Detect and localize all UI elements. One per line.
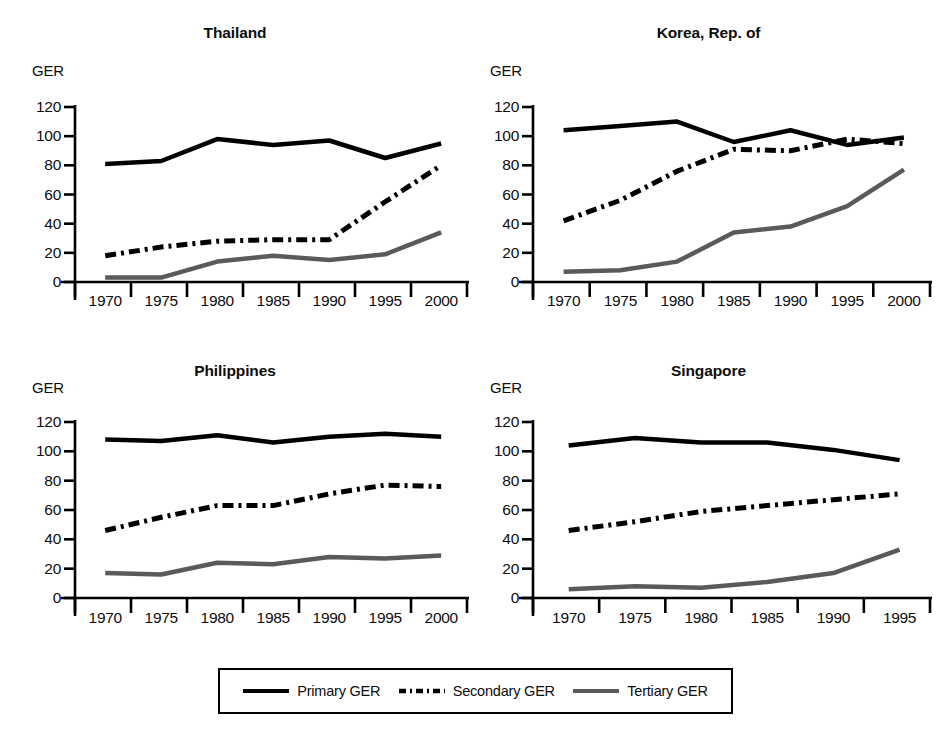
chart-legend: Primary GER Secondary GER Tertiary GER — [218, 668, 733, 714]
y-tick-label: 80 — [13, 156, 61, 174]
series-line-primary — [105, 139, 441, 164]
y-tick-label: 20 — [13, 560, 61, 578]
legend-label-primary: Primary GER — [297, 683, 380, 699]
y-tick-label: 20 — [471, 560, 519, 578]
x-tick-label: 1975 — [605, 609, 665, 627]
x-tick-label: 1980 — [671, 609, 731, 627]
y-axis-label-thailand: GER — [32, 62, 64, 79]
x-tick-label: 1970 — [75, 609, 135, 627]
x-tick-label: 1970 — [75, 292, 135, 310]
series-line-secondary — [564, 139, 904, 221]
series-line-primary — [564, 122, 904, 145]
y-tick-label: 40 — [471, 215, 519, 233]
y-tick-label: 40 — [13, 530, 61, 548]
y-tick-label: 60 — [13, 501, 61, 519]
legend-label-secondary: Secondary GER — [453, 683, 555, 699]
y-axis-label-singapore: GER — [490, 379, 522, 396]
x-tick-label: 2000 — [874, 292, 934, 310]
x-tick-label: 1990 — [803, 609, 863, 627]
x-tick-label: 2000 — [411, 292, 471, 310]
y-tick-label: 0 — [13, 273, 61, 291]
x-tick-label: 1985 — [704, 292, 764, 310]
x-tick-label: 1970 — [539, 609, 599, 627]
x-tick-label: 1975 — [131, 292, 191, 310]
y-tick-label: 120 — [471, 413, 519, 431]
y-tick-label: 0 — [13, 589, 61, 607]
y-tick-label: 80 — [471, 472, 519, 490]
y-tick-label: 120 — [13, 98, 61, 116]
y-tick-label: 80 — [13, 472, 61, 490]
x-tick-label: 1975 — [590, 292, 650, 310]
x-tick-label: 1995 — [870, 609, 930, 627]
x-tick-label: 1975 — [131, 609, 191, 627]
y-tick-label: 100 — [471, 127, 519, 145]
dashed-line-icon — [399, 686, 445, 696]
panel-title-singapore: Singapore — [470, 362, 947, 380]
y-tick-label: 60 — [13, 186, 61, 204]
x-tick-label: 1985 — [243, 609, 303, 627]
legend-entry-secondary: Secondary GER — [399, 683, 555, 699]
series-line-primary — [569, 438, 900, 460]
y-tick-label: 100 — [13, 442, 61, 460]
series-line-secondary — [105, 485, 441, 530]
legend-entry-primary: Primary GER — [243, 683, 380, 699]
legend-label-tertiary: Tertiary GER — [627, 683, 708, 699]
y-tick-label: 60 — [471, 501, 519, 519]
x-tick-label: 1980 — [187, 609, 247, 627]
y-tick-label: 100 — [471, 442, 519, 460]
y-tick-label: 60 — [471, 186, 519, 204]
panel-title-thailand: Thailand — [0, 24, 470, 42]
y-tick-label: 20 — [471, 244, 519, 262]
y-tick-label: 0 — [471, 273, 519, 291]
x-tick-label: 1995 — [355, 292, 415, 310]
y-tick-label: 0 — [471, 589, 519, 607]
x-tick-label: 1995 — [355, 609, 415, 627]
series-line-tertiary — [569, 550, 900, 590]
x-tick-label: 1990 — [299, 609, 359, 627]
x-tick-label: 1995 — [817, 292, 877, 310]
x-tick-label: 1990 — [760, 292, 820, 310]
gray-line-icon — [573, 686, 619, 696]
panel-title-philippines: Philippines — [0, 362, 470, 380]
y-axis-label-korea: GER — [490, 62, 522, 79]
solid-line-icon — [243, 686, 289, 696]
series-line-secondary — [105, 165, 441, 256]
x-tick-label: 1980 — [647, 292, 707, 310]
y-tick-label: 120 — [13, 413, 61, 431]
x-tick-label: 1980 — [187, 292, 247, 310]
y-tick-label: 120 — [471, 98, 519, 116]
series-line-tertiary — [105, 232, 441, 277]
series-line-primary — [105, 434, 441, 443]
series-line-tertiary — [564, 170, 904, 272]
series-line-tertiary — [105, 556, 441, 575]
x-tick-label: 1970 — [534, 292, 594, 310]
y-axis-label-philippines: GER — [32, 379, 64, 396]
series-line-secondary — [569, 494, 900, 531]
y-tick-label: 100 — [13, 127, 61, 145]
figure-root: ThailandGER02040608010012019701975198019… — [0, 0, 947, 745]
x-tick-label: 1985 — [737, 609, 797, 627]
x-tick-label: 1985 — [243, 292, 303, 310]
y-tick-label: 80 — [471, 156, 519, 174]
panel-title-korea: Korea, Rep. of — [470, 24, 947, 42]
x-tick-label: 2000 — [411, 609, 471, 627]
y-tick-label: 40 — [13, 215, 61, 233]
y-tick-label: 20 — [13, 244, 61, 262]
legend-entry-tertiary: Tertiary GER — [573, 683, 708, 699]
x-tick-label: 1990 — [299, 292, 359, 310]
y-tick-label: 40 — [471, 530, 519, 548]
